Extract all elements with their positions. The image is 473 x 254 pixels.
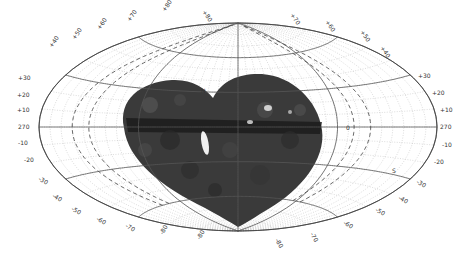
left-latitude-label: -40 xyxy=(52,192,64,203)
upper-rim-label: +40 xyxy=(47,34,60,49)
left-latitude-label: +20 xyxy=(17,91,30,98)
right-latitude-label: -10 xyxy=(442,141,452,148)
left-latitude-label: +10 xyxy=(17,106,30,113)
left-latitude-label: +30 xyxy=(18,74,31,81)
texture-blob xyxy=(294,104,306,116)
right-latitude-label: -50 xyxy=(375,206,387,217)
texture-blob xyxy=(181,161,199,179)
texture-blob xyxy=(208,183,222,197)
right-latitude-label: -40 xyxy=(398,194,410,205)
left-latitude-label: -70 xyxy=(125,222,137,233)
right-latitude-label: -30 xyxy=(416,178,428,189)
center-marker: 0 xyxy=(346,124,350,131)
lower-rim-label: -70 xyxy=(309,231,320,243)
left-latitude-label: -10 xyxy=(18,139,28,146)
upper-rim-label: +70 xyxy=(125,8,138,23)
right-latitude-label: -20 xyxy=(434,158,444,165)
north-marker: N xyxy=(201,87,206,94)
equator-label-left: 270 xyxy=(18,123,30,130)
major-grid xyxy=(39,23,437,231)
upper-rim-label: +70 xyxy=(289,12,302,27)
upper-rim-label: +50 xyxy=(359,29,372,44)
lower-rim-label: -80 xyxy=(274,237,285,249)
upper-rim-label: +60 xyxy=(324,19,337,34)
lower-rim-label: -80 xyxy=(195,228,206,240)
texture-blob xyxy=(222,142,238,158)
upper-rim-label: +40 xyxy=(379,45,392,60)
texture-blob xyxy=(138,143,152,157)
left-latitude-label: -50 xyxy=(71,205,83,216)
right-latitude-label: +30 xyxy=(418,72,431,79)
lower-rim-label: -80 xyxy=(158,223,169,235)
south-marker: S xyxy=(392,167,396,174)
texture-blob xyxy=(250,165,270,185)
right-latitude-label: +20 xyxy=(432,89,445,96)
upper-rim-label: +60 xyxy=(95,16,108,31)
upper-rim-label: +80 xyxy=(201,9,214,24)
sky-map: 2702700NS+30+20+10-10-20-30-40-50-60-70+… xyxy=(0,0,473,254)
left-latitude-label: -30 xyxy=(38,175,50,186)
bright-spot xyxy=(288,110,292,114)
left-latitude-label: -20 xyxy=(24,156,34,163)
upper-rim-label: +80 xyxy=(160,0,173,13)
bright-spot xyxy=(264,105,272,111)
equator-label-right: 270 xyxy=(440,123,452,130)
upper-rim-label: +50 xyxy=(70,26,83,41)
texture-blob xyxy=(160,130,180,150)
texture-blob xyxy=(281,131,299,149)
texture-blob xyxy=(174,94,186,106)
right-latitude-label: +10 xyxy=(440,106,453,113)
bright-spot xyxy=(247,120,253,124)
texture-blob xyxy=(142,97,158,113)
left-latitude-label: -60 xyxy=(96,215,108,226)
right-latitude-label: -60 xyxy=(343,219,355,230)
